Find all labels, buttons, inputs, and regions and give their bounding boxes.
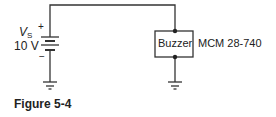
top-wire: [50, 5, 175, 37]
figure-caption: Figure 5-4: [14, 98, 71, 110]
part-number: MCM 28-740: [198, 38, 262, 49]
junction-dot-bottom: [173, 55, 177, 59]
buzzer-label: Buzzer: [158, 38, 192, 49]
circuit-diagram: VS + 10 V − Buzzer MCM 28-740 Figure 5-4: [0, 0, 276, 117]
source-voltage: 10 V: [14, 40, 39, 52]
source-symbol: V: [19, 25, 27, 39]
junction-dot-top: [173, 29, 177, 33]
source-label: VS: [19, 26, 32, 40]
negative-marker: −: [39, 52, 45, 62]
positive-marker: +: [38, 22, 44, 32]
